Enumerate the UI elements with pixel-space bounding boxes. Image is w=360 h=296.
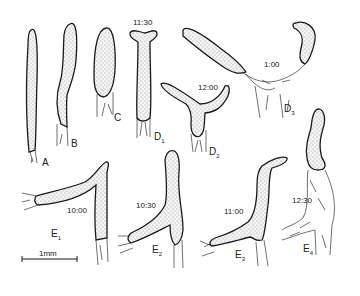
panel-label-c: C [114,112,121,123]
time-label-e3: 11:00 [224,207,244,216]
time-label-e1: 10:00 [67,206,88,215]
panel-d1: 11:30 D1 [130,18,165,144]
scale-bar-label: 1mm [39,249,57,258]
panel-e4: 12:30 E4 [282,109,334,256]
panel-e3: 11:00 E3 [200,157,287,266]
time-label-e4: 12:30 [292,196,313,205]
panel-label-e3: E3 [235,249,246,262]
panel-b: B [57,23,78,149]
time-label-d1: 11:30 [133,18,153,27]
panel-e2: 10:30 E2 [118,151,183,268]
panel-label-a: A [42,157,49,168]
panel-label-b: B [71,138,78,149]
panel-c: C [94,28,121,123]
scale-bar: 1mm [22,249,77,262]
panel-d2: 12:00 D2 [161,83,229,159]
time-label-d2: 12:00 [198,83,219,92]
panel-label-e2: E2 [152,244,163,257]
panel-label-d1: D1 [154,131,165,144]
panel-label-e1: E1 [51,228,62,241]
panel-label-e4: E4 [303,243,314,256]
illustration-figure: A B C 11:30 D1 12:00 D2 1:00 D3 10:00 [0,0,360,296]
panel-a: A [27,29,49,168]
time-label-e2: 10:30 [136,201,157,210]
panel-e1: 10:00 E1 [22,162,108,265]
panel-label-d2: D2 [209,146,220,159]
time-label-d3: 1:00 [264,60,280,69]
panel-label-d3: D3 [284,103,295,116]
